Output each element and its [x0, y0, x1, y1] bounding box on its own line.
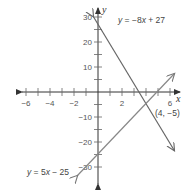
y-axis-label: y: [101, 4, 107, 15]
x-axis-label: x: [175, 93, 181, 104]
line-y-eq-neg8x-plus-27: [93, 16, 174, 150]
intersection-label: (4, −5): [155, 108, 180, 118]
y-tick-label: 10: [83, 63, 92, 72]
y-tick-label: 20: [83, 38, 92, 47]
equation-label-2: y = 5x − 25: [26, 167, 69, 177]
y-tick-label: 30: [83, 13, 92, 22]
x-tick-label: −2: [69, 99, 79, 108]
y-tick-label: −20: [78, 138, 92, 147]
x-tick-label: 6: [168, 99, 173, 108]
y-tick-label: −10: [78, 113, 92, 122]
x-tick-label: −6: [21, 99, 31, 108]
x-tick-label: −4: [45, 99, 55, 108]
equation-label-1: y = −8x + 27: [117, 15, 165, 25]
x-tick-label: 2: [120, 99, 125, 108]
coordinate-plane: −6 −4 −2 2 6 30 20 10 −10 −20 −30 x y y …: [0, 0, 191, 190]
